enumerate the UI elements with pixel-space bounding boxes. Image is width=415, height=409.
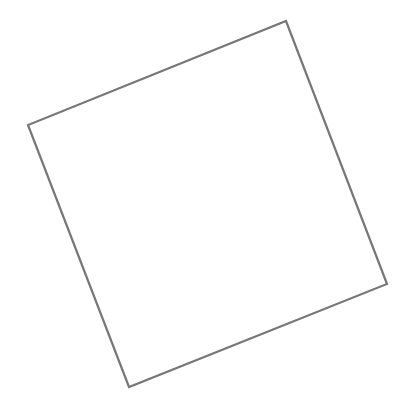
diagram-canvas: [0, 0, 415, 409]
rotated-square-shape: [28, 21, 387, 387]
